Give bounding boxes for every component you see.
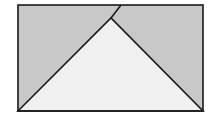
geometry-diagram: [0, 0, 220, 128]
